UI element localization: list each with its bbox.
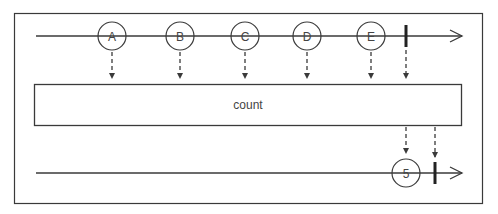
output-timeline — [36, 167, 462, 179]
marble-label: A — [108, 30, 116, 44]
marble-diagram: A B C D E count — [0, 0, 498, 214]
input-to-operator-arrows — [112, 50, 406, 78]
operator-to-output-arrows — [406, 127, 435, 157]
operator-label: count — [233, 98, 263, 112]
marble-label: E — [367, 30, 375, 44]
marble-label: C — [241, 30, 250, 44]
marble-label: D — [303, 30, 312, 44]
marble-label: B — [176, 30, 184, 44]
operator-box: count — [35, 85, 462, 126]
marble-label: 5 — [403, 167, 410, 181]
